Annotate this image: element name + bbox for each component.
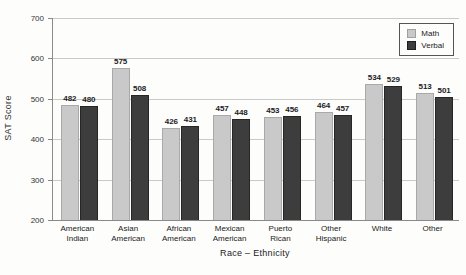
- bar-group-mexican-american: 457448: [205, 18, 256, 220]
- y-tick-mark: [48, 58, 52, 59]
- bar-group-white: 534529: [358, 18, 409, 220]
- bar-group-puerto-rican: 453456: [256, 18, 307, 220]
- bar-group-american-indian: 482480: [53, 18, 104, 220]
- bar-value-label-math-american-indian: 482: [63, 94, 76, 103]
- bar-group-african-american: 426431: [155, 18, 206, 220]
- bar-value-label-math-other: 513: [418, 82, 431, 91]
- plot-area: Math Verbal 4824805755084264314574484534…: [52, 18, 459, 221]
- bar-group-asian-american: 575508: [104, 18, 155, 220]
- bar-math-african-american: [162, 128, 180, 220]
- category-label-puerto-rican: PuertoRican: [255, 224, 306, 243]
- y-tick-mark: [48, 139, 52, 140]
- bar-verbal-mexican-american: [232, 119, 250, 220]
- bar-verbal-white: [384, 86, 402, 220]
- category-label-white: White: [357, 224, 408, 234]
- bar-group-other: 513501: [408, 18, 459, 220]
- bar-value-label-math-other-hispanic: 464: [317, 101, 330, 110]
- bar-value-label-math-mexican-american: 457: [215, 104, 228, 113]
- category-label-african-american: AfricanAmerican: [154, 224, 205, 243]
- x-axis-title: Race – Ethnicity: [52, 248, 458, 258]
- bar-value-label-verbal-african-american: 431: [184, 115, 197, 124]
- bar-value-label-verbal-white: 529: [387, 75, 400, 84]
- bar-math-other-hispanic: [315, 112, 333, 220]
- bar-math-other: [416, 93, 434, 220]
- y-axis-title: SAT Score: [3, 73, 13, 163]
- bar-value-label-verbal-asian-american: 508: [133, 84, 146, 93]
- y-tick-mark: [48, 18, 52, 19]
- category-label-american-indian: AmericanIndian: [52, 224, 103, 243]
- bar-verbal-other-hispanic: [334, 115, 352, 220]
- bar-value-label-math-white: 534: [368, 73, 381, 82]
- y-tick-mark: [48, 180, 52, 181]
- y-tick-mark: [48, 99, 52, 100]
- y-tick-mark: [48, 220, 52, 221]
- bar-value-label-verbal-other-hispanic: 457: [336, 104, 349, 113]
- bar-verbal-other: [435, 97, 453, 220]
- category-label-mexican-american: MexicanAmerican: [204, 224, 255, 243]
- bar-verbal-african-american: [181, 126, 199, 220]
- y-tick-label-400: 400: [14, 135, 44, 144]
- bar-math-american-indian: [61, 105, 79, 220]
- bar-math-puerto-rican: [264, 117, 282, 220]
- y-tick-label-700: 700: [14, 14, 44, 23]
- category-label-other: Other: [407, 224, 458, 234]
- category-label-asian-american: AsianAmerican: [103, 224, 154, 243]
- bar-verbal-american-indian: [80, 106, 98, 220]
- bar-math-asian-american: [112, 68, 130, 221]
- x-axis-category-labels: AmericanIndianAsianAmericanAfricanAmeric…: [52, 224, 458, 246]
- bar-value-label-verbal-other: 501: [437, 86, 450, 95]
- sat-scores-bar-chart: SAT Score Math Verbal 482480575508426431…: [0, 0, 466, 275]
- bar-value-label-verbal-mexican-american: 448: [234, 108, 247, 117]
- bar-verbal-puerto-rican: [283, 116, 301, 220]
- y-tick-label-500: 500: [14, 95, 44, 104]
- bar-value-label-math-puerto-rican: 453: [266, 106, 279, 115]
- bar-value-label-math-asian-american: 575: [114, 57, 127, 66]
- bar-value-label-verbal-american-indian: 480: [82, 95, 95, 104]
- bar-math-white: [365, 84, 383, 220]
- bar-math-mexican-american: [213, 115, 231, 220]
- bar-value-label-math-african-american: 426: [165, 117, 178, 126]
- y-tick-label-600: 600: [14, 54, 44, 63]
- bar-verbal-asian-american: [131, 95, 149, 220]
- bar-group-other-hispanic: 464457: [307, 18, 358, 220]
- bar-value-label-verbal-puerto-rican: 456: [285, 105, 298, 114]
- y-tick-label-200: 200: [14, 216, 44, 225]
- y-tick-label-300: 300: [14, 176, 44, 185]
- category-label-other-hispanic: OtherHispanic: [306, 224, 357, 243]
